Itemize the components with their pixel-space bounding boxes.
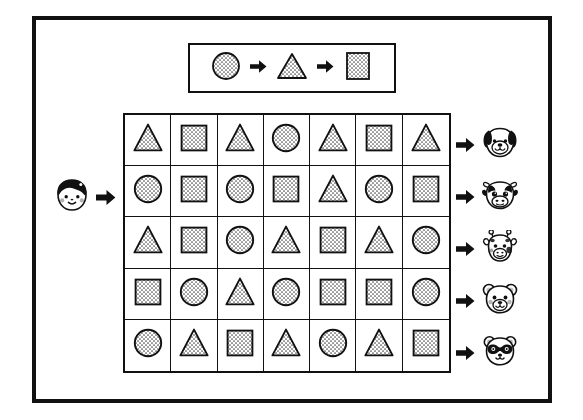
grid-cell-r1-c5[interactable]	[310, 115, 356, 166]
grid-cell-r3-c2[interactable]	[171, 217, 217, 268]
grid-cell-r4-c3[interactable]	[218, 269, 264, 320]
circle-shape	[223, 223, 257, 261]
grid-cell-r1-c4[interactable]	[264, 115, 310, 166]
grid-cell-r5-c5[interactable]	[310, 320, 356, 371]
circle-shape	[269, 275, 303, 313]
grid-cell-r4-c5[interactable]	[310, 269, 356, 320]
square-shape	[177, 172, 211, 210]
shape-grid	[123, 113, 451, 373]
grid-cell-r4-c1[interactable]	[125, 269, 171, 320]
grid-cell-r5-c4[interactable]	[264, 320, 310, 371]
circle-shape	[131, 172, 165, 210]
row-4-arrow-right-icon	[456, 293, 475, 313]
square-shape	[409, 326, 443, 364]
grid-cell-r1-c1[interactable]	[125, 115, 171, 166]
circle-shape	[177, 275, 211, 313]
circle-shape	[409, 275, 443, 313]
legend-triangle-shape	[276, 51, 308, 85]
legend-arrow-right-icon-1	[250, 59, 267, 78]
circle-shape	[409, 223, 443, 261]
grid-cell-r3-c4[interactable]	[264, 217, 310, 268]
dog-face-icon	[481, 126, 519, 164]
cow-face-icon	[481, 178, 519, 216]
triangle-shape	[409, 121, 443, 159]
grid-cell-r3-c1[interactable]	[125, 217, 171, 268]
grid-cell-r4-c6[interactable]	[356, 269, 402, 320]
triangle-shape	[269, 326, 303, 364]
circle-shape	[131, 326, 165, 364]
triangle-shape	[316, 121, 350, 159]
square-shape	[269, 172, 303, 210]
triangle-shape	[316, 172, 350, 210]
grid-cell-r2-c3[interactable]	[218, 166, 264, 217]
triangle-shape	[131, 223, 165, 261]
triangle-shape	[269, 223, 303, 261]
panda-face-icon	[481, 334, 519, 372]
row-2-arrow-right-icon	[456, 189, 475, 209]
triangle-shape	[223, 121, 257, 159]
grid-cell-r1-c3[interactable]	[218, 115, 264, 166]
square-shape	[131, 275, 165, 313]
grid-cell-r4-c2[interactable]	[171, 269, 217, 320]
square-shape	[362, 121, 396, 159]
row-3-arrow-right-icon	[456, 241, 475, 261]
square-shape	[316, 275, 350, 313]
grid-cell-r3-c3[interactable]	[218, 217, 264, 268]
circle-shape	[362, 172, 396, 210]
grid-cell-r5-c1[interactable]	[125, 320, 171, 371]
square-shape	[316, 223, 350, 261]
grid-cell-r1-c7[interactable]	[403, 115, 449, 166]
square-shape	[177, 121, 211, 159]
grid-cell-r3-c7[interactable]	[403, 217, 449, 268]
grid-cell-r5-c2[interactable]	[171, 320, 217, 371]
grid-cell-r2-c2[interactable]	[171, 166, 217, 217]
grid-cell-r1-c6[interactable]	[356, 115, 402, 166]
square-shape	[409, 172, 443, 210]
grid-cell-r5-c6[interactable]	[356, 320, 402, 371]
grid-cell-r4-c7[interactable]	[403, 269, 449, 320]
circle-shape	[269, 121, 303, 159]
giraffe-face-icon	[481, 230, 519, 270]
triangle-shape	[131, 121, 165, 159]
row-5-arrow-right-icon	[456, 345, 475, 365]
grid-cell-r1-c2[interactable]	[171, 115, 217, 166]
worksheet-canvas	[0, 0, 583, 420]
triangle-shape	[362, 223, 396, 261]
grid-cell-r2-c6[interactable]	[356, 166, 402, 217]
grid-cell-r3-c5[interactable]	[310, 217, 356, 268]
row-1-arrow-right-icon	[456, 137, 475, 157]
legend-square-shape	[343, 51, 373, 85]
boy-face-icon	[52, 176, 92, 220]
square-shape	[362, 275, 396, 313]
square-shape	[177, 223, 211, 261]
grid-cell-r5-c3[interactable]	[218, 320, 264, 371]
grid-cell-r2-c4[interactable]	[264, 166, 310, 217]
triangle-shape	[177, 326, 211, 364]
bear-face-icon	[481, 282, 519, 320]
grid-cell-r2-c7[interactable]	[403, 166, 449, 217]
grid-cell-r2-c1[interactable]	[125, 166, 171, 217]
legend-arrow-right-icon-2	[317, 59, 334, 78]
grid-cell-r3-c6[interactable]	[356, 217, 402, 268]
grid-cell-r5-c7[interactable]	[403, 320, 449, 371]
circle-shape	[316, 326, 350, 364]
circle-shape	[223, 172, 257, 210]
triangle-shape	[362, 326, 396, 364]
grid-cell-r4-c4[interactable]	[264, 269, 310, 320]
start-arrow-right-icon	[96, 189, 116, 210]
grid-cell-r2-c5[interactable]	[310, 166, 356, 217]
legend-circle-shape	[211, 51, 241, 85]
shape-sequence-key	[188, 43, 396, 93]
triangle-shape	[223, 275, 257, 313]
square-shape	[223, 326, 257, 364]
